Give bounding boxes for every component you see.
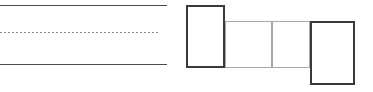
rail-lines-group [0,6,167,65]
block-middle-first [226,22,272,68]
diagram-canvas [0,0,373,92]
block-chain-group [187,6,354,84]
block-left-tall [187,6,224,67]
block-middle-second [273,22,310,68]
block-right-tall [311,22,354,84]
diagram-svg [0,0,373,92]
